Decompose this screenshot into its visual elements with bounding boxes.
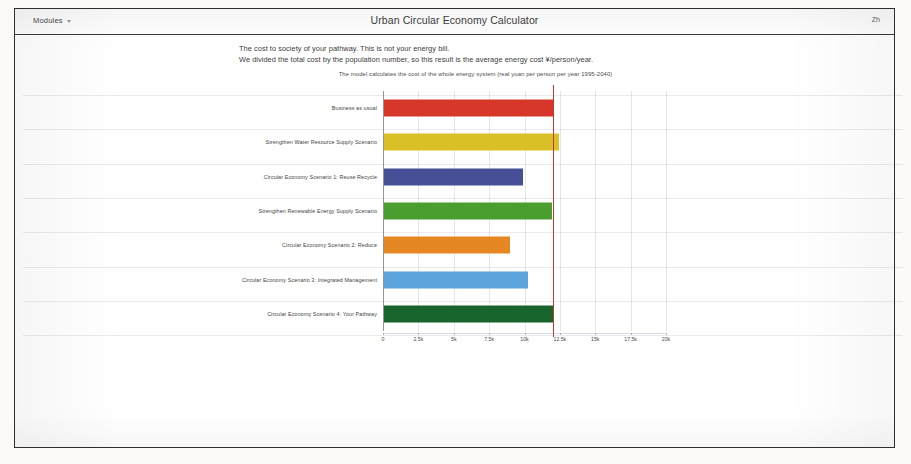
bar-category-label: Strengthen Renewable Energy Supply Scena… [259,208,377,214]
gridline [666,91,667,331]
bar-category-label: Circular Economy Scenario 2: Reduce [282,242,377,248]
bar[interactable] [384,271,528,288]
bar[interactable] [384,305,554,322]
bar-category-label: Circular Economy Scenario 3: Integrated … [242,277,377,283]
x-tick-label: 12.5k [554,336,567,342]
bar[interactable] [384,100,554,117]
x-tick-mark [560,333,561,335]
bar[interactable] [384,168,523,185]
x-tick-mark [595,333,596,335]
intro-text: The cost to society of your pathway. Thi… [239,44,593,65]
bar-category-label: Business as usual [332,105,377,111]
x-tick-label: 0 [382,336,385,342]
bar[interactable] [384,134,559,151]
page-title: Urban Circular Economy Calculator [15,14,894,26]
x-tick-mark [418,333,419,335]
application-window: Modules Urban Circular Economy Calculato… [14,8,895,448]
bar-row[interactable]: Business as usual [383,91,666,125]
chart-plot-area: Business as usualStrengthen Water Resour… [383,91,666,331]
x-tick-label: 15k [591,336,599,342]
chart-title: The model calculates the cost of the who… [15,71,894,77]
x-tick-label: 7.5k [484,336,494,342]
bar-category-label: Strengthen Water Resource Supply Scenari… [266,139,377,145]
bar-row[interactable]: Circular Economy Scenario 3: Integrated … [383,263,666,297]
app-header: Modules Urban Circular Economy Calculato… [15,9,894,35]
x-tick-label: 5k [451,336,456,342]
x-tick-label: 10k [520,336,528,342]
cost-chart: The model calculates the cost of the who… [15,71,894,371]
bar-row[interactable]: Circular Economy Scenario 1: Reuse Recyc… [383,160,666,194]
x-axis: 02.5k5k7.5k10k12.5k15k17.5k20k [383,333,666,349]
x-tick-mark [489,333,490,335]
scanned-page: Modules Urban Circular Economy Calculato… [0,0,911,464]
bar-row[interactable]: Strengthen Water Resource Supply Scenari… [383,125,666,159]
intro-line-1: The cost to society of your pathway. Thi… [239,44,593,55]
language-switch-button[interactable]: Zh [872,16,880,23]
bar[interactable] [384,203,552,220]
bar[interactable] [384,237,510,254]
bar-category-label: Circular Economy Scenario 1: Reuse Recyc… [264,174,377,180]
x-tick-mark [454,333,455,335]
bar-row[interactable]: Circular Economy Scenario 2: Reduce [383,228,666,262]
intro-line-2: We divided the total cost by the populat… [239,55,593,66]
bar-category-label: Circular Economy Scenario 4: Your Pathwa… [267,311,377,317]
bar-row[interactable]: Circular Economy Scenario 4: Your Pathwa… [383,297,666,331]
reference-line [553,85,554,337]
x-tick-mark [383,333,384,335]
bar-row[interactable]: Strengthen Renewable Energy Supply Scena… [383,194,666,228]
x-tick-mark [666,333,667,335]
x-tick-label: 20k [662,336,670,342]
x-tick-label: 2.5k [413,336,423,342]
x-tick-label: 17.5k [624,336,637,342]
x-tick-mark [525,333,526,335]
x-tick-mark [631,333,632,335]
